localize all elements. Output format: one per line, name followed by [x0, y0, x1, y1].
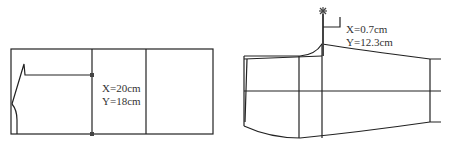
marker-point-icon	[90, 132, 94, 136]
left-label-y: Y=18cm	[102, 95, 141, 107]
left-curve	[12, 104, 17, 134]
left-neck-line	[12, 64, 92, 104]
marker-point-icon	[90, 73, 94, 77]
right-pattern-figure	[244, 14, 441, 138]
right-bottom-edge	[244, 122, 441, 138]
right-label-y: Y=12.3cm	[346, 36, 393, 48]
right-label-x: X=0.7cm	[346, 23, 387, 35]
left-label-x: X=20cm	[102, 82, 141, 94]
marker-bracket	[323, 17, 340, 27]
right-top-edge	[244, 44, 441, 59]
asterisk-marker-icon	[319, 7, 327, 15]
